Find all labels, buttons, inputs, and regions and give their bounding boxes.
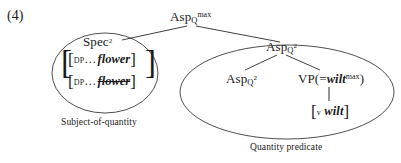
node-asp-q-max-superscript: max	[197, 10, 211, 19]
node-asp-q-max-base: Asp	[170, 9, 191, 24]
node-spec: Spec2	[83, 35, 112, 48]
spec-bracket-row: [DP…flower]	[68, 71, 136, 93]
node-vp-superscript: max	[346, 72, 360, 81]
node-asp-q-lower-superscript: 2	[253, 74, 257, 82]
node-vp: VP(=wiltmax)	[298, 72, 364, 86]
node-vp-word-wilt: wilt	[327, 72, 346, 86]
v-label: v	[317, 108, 321, 117]
node-vp-suffix: )	[360, 71, 364, 86]
edge-root-to-spec	[122, 26, 187, 40]
v-word-wilt: wilt	[324, 104, 343, 118]
node-vp-prefix: VP(=	[298, 71, 327, 86]
node-asp-q-max: AspQmax	[170, 10, 211, 24]
dp-bracket-close: ]	[130, 50, 136, 69]
node-asp-q-mid-superscript: 2	[293, 42, 297, 50]
figure-container: (4) AspQmax Spec2 [ ] [DP…flower] [DP…fl…	[0, 0, 401, 163]
dp-ellipsis: …	[84, 74, 97, 88]
node-v-terminal: [v wilt]	[311, 103, 349, 120]
dp-word-flower-struck: flower	[98, 74, 131, 88]
caption-quantity-predicate: Quantity predicate	[250, 142, 322, 152]
dp-label: DP	[74, 56, 85, 65]
right-ellipse-quantity-predicate	[180, 45, 394, 139]
edge-asp-mid-to-vp	[286, 55, 320, 70]
edge-asp-mid-to-asp-lower	[245, 55, 277, 70]
dp-word-flower: flower	[98, 52, 131, 66]
node-asp-q-mid: AspQ2	[266, 40, 297, 54]
node-asp-q-lower: AspQ2	[226, 72, 257, 86]
node-asp-q-mid-base: Asp	[266, 39, 287, 54]
dp-ellipsis: …	[84, 52, 97, 66]
spec-bracket-rows: [DP…flower] [DP…flower]	[68, 49, 136, 93]
v-bracket-close: ]	[343, 102, 349, 121]
spec-outer-bracket-close: ]	[145, 46, 156, 79]
dp-bracket-close: ]	[130, 72, 136, 91]
caption-subject-of-quantity: Subject-of-quantity	[61, 117, 137, 127]
node-asp-q-lower-base: Asp	[226, 71, 247, 86]
spec-bracket-row: [DP…flower]	[68, 49, 136, 71]
node-spec-superscript: 2	[109, 37, 113, 45]
node-spec-base: Spec	[83, 34, 109, 49]
dp-label: DP	[74, 78, 85, 87]
